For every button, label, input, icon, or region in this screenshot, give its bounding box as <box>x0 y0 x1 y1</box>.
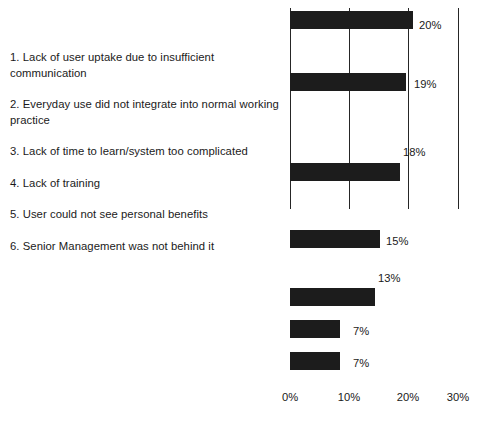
gridline-30 <box>458 8 459 209</box>
bar-value-label: 7% <box>353 357 369 369</box>
bar-value-label: 13% <box>378 272 400 284</box>
x-axis-tick-label: 20% <box>388 391 428 403</box>
bar <box>290 288 375 306</box>
bar <box>290 11 413 29</box>
x-axis-tick-label: 0% <box>270 391 310 403</box>
bar <box>290 230 380 248</box>
x-axis-tick-label: 30% <box>438 391 478 403</box>
bar <box>290 73 406 91</box>
chart-page: 1. Lack of user uptake due to insufficie… <box>0 0 479 427</box>
bar <box>290 352 340 370</box>
gridline-20 <box>408 8 409 209</box>
bar-value-label: 15% <box>386 235 408 247</box>
bar-value-label: 20% <box>419 19 441 31</box>
bar <box>290 320 340 338</box>
bar <box>290 163 400 181</box>
bar-value-label: 18% <box>403 146 425 158</box>
bar-value-label: 7% <box>353 325 369 337</box>
bar-chart-plot: 20%19%18%15%13%7%7%0%10%20%30% <box>0 0 479 427</box>
bar-value-label: 19% <box>414 78 436 90</box>
x-axis-tick-label: 10% <box>329 391 369 403</box>
